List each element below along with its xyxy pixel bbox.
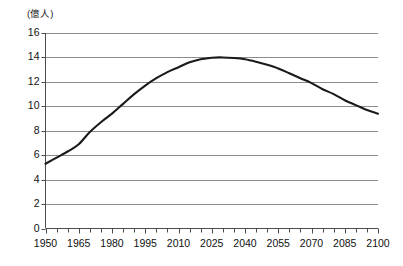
population-line-chart: (億人) 0246810121416 195019651980199520102…: [0, 0, 403, 266]
y-axis-tick-label: 4: [16, 174, 40, 185]
chart-canvas: [0, 0, 403, 266]
y-axis-tick-label: 6: [16, 149, 40, 160]
y-axis-tick-label: 12: [16, 76, 40, 87]
y-axis-tick-label: 16: [16, 27, 40, 38]
y-axis-tick-label: 10: [16, 100, 40, 111]
x-axis-minor-ticks: [47, 229, 379, 234]
y-axis-tick-label: 14: [16, 51, 40, 62]
gridlines: [46, 34, 379, 205]
y-axis-tick-label: 8: [16, 125, 40, 136]
y-axis-ticks: [42, 34, 46, 230]
x-axis-tick-label: 2100: [358, 237, 398, 249]
y-axis-tick-label: 0: [16, 223, 40, 234]
y-axis-tick-label: 2: [16, 198, 40, 209]
data-series-world-population: [46, 57, 379, 163]
